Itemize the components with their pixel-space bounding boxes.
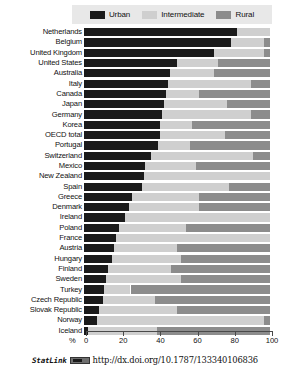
bar-segment-urban xyxy=(84,183,142,191)
stacked-bar xyxy=(84,306,270,314)
chart-row: Poland xyxy=(0,223,284,233)
stacked-bar xyxy=(84,80,270,88)
bar-segment-intermediate xyxy=(97,316,264,324)
bar-segment-intermediate xyxy=(132,193,199,201)
bar-segment-urban xyxy=(84,255,112,263)
chart-row: Slovak Republic xyxy=(0,305,284,315)
chart-row: Canada xyxy=(0,89,284,99)
bar-segment-intermediate xyxy=(160,131,225,139)
bar-segment-rural xyxy=(181,255,270,263)
bar-segment-urban xyxy=(84,49,214,57)
bar-segment-rural xyxy=(192,121,270,129)
bar-segment-urban xyxy=(84,224,119,232)
bar-segment-rural xyxy=(225,131,270,139)
bar-segment-urban xyxy=(84,90,166,98)
bar-segment-urban xyxy=(84,100,164,108)
bar-segment-intermediate xyxy=(170,69,215,77)
category-label: United States xyxy=(0,59,84,67)
x-axis-tick-label: 60 xyxy=(193,336,201,345)
chart-row: Turkey xyxy=(0,284,284,294)
chart-row: OECD total xyxy=(0,130,284,140)
stacked-bar xyxy=(84,275,270,283)
chart-row: Germany xyxy=(0,109,284,119)
category-label: Iceland xyxy=(0,327,84,335)
chart-row: Austria xyxy=(0,243,284,253)
chart-row: Belgium xyxy=(0,37,284,47)
bar-segment-urban xyxy=(84,193,132,201)
bar-segment-intermediate xyxy=(160,121,192,129)
chart-legend: Urban Intermediate Rural xyxy=(72,5,272,24)
bar-segment-rural xyxy=(251,80,270,88)
chart-row: United States xyxy=(0,58,284,68)
bar-segment-urban xyxy=(84,28,237,36)
category-label: Hungary xyxy=(0,255,84,263)
statlink-label: StatLink xyxy=(32,356,67,365)
legend-swatch-intermediate-icon xyxy=(142,11,157,19)
bar-segment-rural xyxy=(218,59,270,67)
legend-label-intermediate: Intermediate xyxy=(161,10,204,19)
category-label: Netherlands xyxy=(0,28,84,36)
chart-row: Japan xyxy=(0,99,284,109)
bar-segment-intermediate xyxy=(106,275,180,283)
chart-row: Greece xyxy=(0,192,284,202)
stacked-bar xyxy=(84,90,270,98)
category-label: Mexico xyxy=(0,162,84,170)
bar-segment-intermediate xyxy=(116,234,270,242)
bar-segment-intermediate xyxy=(237,28,270,36)
chart-row: New Zealand xyxy=(0,171,284,181)
bar-segment-urban xyxy=(84,244,114,252)
bar-segment-rural xyxy=(227,100,270,108)
bar-segment-intermediate xyxy=(166,90,199,98)
chart-row: Sweden xyxy=(0,274,284,284)
stacked-bar xyxy=(84,265,270,273)
bar-segment-rural xyxy=(186,224,270,232)
bar-segment-rural xyxy=(251,110,270,118)
x-axis-tick-label: 100 xyxy=(266,336,279,345)
x-axis-tick-label: 80 xyxy=(231,336,239,345)
bar-segment-intermediate xyxy=(145,162,195,170)
bar-segment-urban xyxy=(84,316,97,324)
stacked-bar xyxy=(84,141,270,149)
bar-segment-intermediate xyxy=(214,49,264,57)
stacked-bar xyxy=(84,49,270,57)
bar-segment-urban xyxy=(84,265,108,273)
category-label: Austria xyxy=(0,244,84,252)
bar-segment-rural xyxy=(155,296,270,304)
x-axis-tick-label: 0 xyxy=(84,336,88,345)
doi-link[interactable]: http://dx.doi.org/10.1787/133340106836 xyxy=(93,355,258,365)
bar-segment-urban xyxy=(84,38,231,46)
bar-segment-urban xyxy=(84,203,129,211)
bar-segment-intermediate xyxy=(144,172,270,180)
bar-segment-intermediate xyxy=(125,213,270,221)
bar-segment-rural xyxy=(264,38,270,46)
x-axis-tick-label: 20 xyxy=(119,336,127,345)
stacked-bar xyxy=(84,316,270,324)
category-label: Switzerland xyxy=(0,152,84,160)
stacked-bar xyxy=(84,255,270,263)
chart-row: Czech Republic xyxy=(0,295,284,305)
bar-segment-rural xyxy=(131,285,271,293)
x-axis-line xyxy=(86,331,272,332)
bar-segment-intermediate xyxy=(129,203,200,211)
chart-row: Ireland xyxy=(0,212,284,222)
stacked-bar xyxy=(84,121,270,129)
stacked-bar xyxy=(84,59,270,67)
legend-swatch-rural-icon xyxy=(216,11,231,19)
bar-segment-urban xyxy=(84,306,99,314)
bar-segment-rural xyxy=(181,275,270,283)
category-label: Slovak Republic xyxy=(0,306,84,314)
stacked-bar xyxy=(84,131,270,139)
category-label: Turkey xyxy=(0,286,84,294)
bar-segment-intermediate xyxy=(162,110,251,118)
category-label: Belgium xyxy=(0,38,84,46)
stacked-bar xyxy=(84,28,270,36)
bar-segment-rural xyxy=(253,152,270,160)
category-label: Czech Republic xyxy=(0,296,84,304)
bar-segment-rural xyxy=(196,162,270,170)
stacked-bar xyxy=(84,296,270,304)
bar-segment-rural xyxy=(177,244,270,252)
bar-segment-rural xyxy=(199,203,270,211)
category-label: Norway xyxy=(0,316,84,324)
bar-segment-intermediate xyxy=(164,100,227,108)
chart-row: Switzerland xyxy=(0,151,284,161)
